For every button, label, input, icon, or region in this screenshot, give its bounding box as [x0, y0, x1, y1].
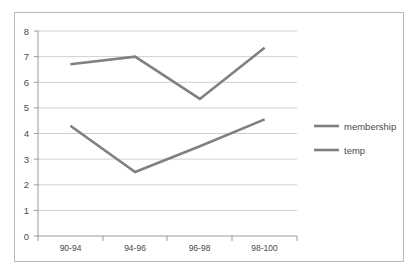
plot-area-container: 8 7 6 5 4 3 2 1 0 90-94 94-96 96-98 98-1…	[15, 13, 405, 263]
legend-label-membership: membership	[344, 121, 396, 132]
series-line-temp	[70, 119, 264, 172]
legend: membership temp	[314, 121, 396, 156]
x-axis-labels: 90-94 94-96 96-98 98-100	[60, 243, 278, 253]
y-tick-label-5: 5	[24, 102, 29, 113]
legend-label-temp: temp	[344, 145, 365, 156]
y-tick-label-8: 8	[24, 26, 29, 37]
series-group	[70, 48, 264, 172]
y-axis-labels: 8 7 6 5 4 3 2 1 0	[24, 26, 29, 242]
line-chart-svg: 8 7 6 5 4 3 2 1 0 90-94 94-96 96-98 98-1…	[15, 13, 405, 263]
y-tick-label-6: 6	[24, 77, 29, 88]
y-tick-marks	[34, 31, 38, 236]
y-tick-label-4: 4	[24, 128, 29, 139]
chart-figure: 8 7 6 5 4 3 2 1 0 90-94 94-96 96-98 98-1…	[14, 12, 404, 262]
x-tick-marks	[38, 236, 297, 241]
y-tick-label-1: 1	[24, 205, 29, 216]
x-tick-label-96-98: 96-98	[189, 243, 211, 253]
x-tick-label-90-94: 90-94	[60, 243, 82, 253]
y-tick-label-2: 2	[24, 179, 29, 190]
series-line-membership	[70, 48, 264, 99]
y-tick-label-0: 0	[24, 231, 29, 242]
x-tick-label-94-96: 94-96	[124, 243, 146, 253]
y-tick-label-7: 7	[24, 51, 29, 62]
y-tick-label-3: 3	[24, 154, 29, 165]
x-tick-label-98-100: 98-100	[251, 243, 278, 253]
